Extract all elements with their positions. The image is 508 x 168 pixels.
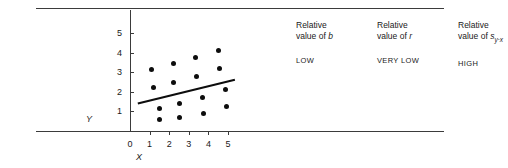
annotation-column-1: Relativevalue of bLOW xyxy=(296,20,354,68)
annotation-heading: Relativevalue of sy·x xyxy=(458,20,508,45)
statistic-symbol: sy·x xyxy=(490,31,503,41)
statistic-symbol: b xyxy=(328,31,333,41)
annotation-value: LOW xyxy=(296,56,354,65)
annotation-value: VERY LOW xyxy=(377,56,435,65)
annotation-column-2: Relativevalue of rVERY LOW xyxy=(377,20,435,68)
annotation-value: HIGH xyxy=(458,59,508,68)
annotation-heading: Relativevalue of r xyxy=(377,20,435,42)
annotation-heading: Relativevalue of b xyxy=(296,20,354,42)
annotation-column-3: Relativevalue of sy·xHIGH xyxy=(458,20,508,68)
statistic-symbol: r xyxy=(409,31,412,41)
annotation-columns: Relativevalue of bLOWRelativevalue of rV… xyxy=(296,20,508,68)
